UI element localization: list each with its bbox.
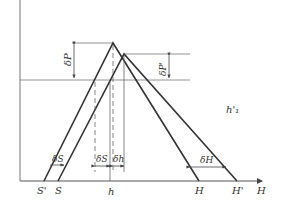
label-delta-s-mid: δS — [96, 154, 108, 164]
label-s: S — [55, 185, 62, 196]
label-s-prime: S' — [37, 185, 47, 196]
label-delta-h-big: δH — [200, 155, 213, 165]
label-axis-h: H — [256, 185, 266, 196]
diagram-canvas: δP δP' h'₁ δS δS δh δH S' S h H H' H — [0, 0, 282, 200]
label-delta-h: δh — [113, 154, 124, 164]
label-h-small: h — [108, 186, 114, 197]
label-h1-prime: h'₁ — [226, 104, 239, 115]
label-delta-p-prime: δP' — [158, 62, 168, 76]
label-h: H — [194, 185, 204, 196]
label-delta-s-left: δS — [52, 154, 64, 164]
label-h-prime: H' — [231, 185, 243, 196]
label-delta-p: δP — [62, 53, 73, 66]
